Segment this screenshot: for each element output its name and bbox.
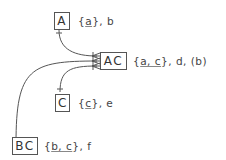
attrs-rest: }, d, (b) (161, 55, 207, 67)
primary-key: a, c (140, 55, 161, 67)
edge-a-ac (59, 30, 97, 56)
entity-a[interactable]: A (54, 12, 70, 30)
entity-ac[interactable]: AC (100, 52, 127, 70)
attrs-rest: }, f (72, 140, 91, 152)
primary-key: b, c (51, 140, 72, 152)
entity-bc-attributes: {b, c}, f (44, 139, 91, 153)
entity-bc[interactable]: BC (12, 137, 38, 155)
entity-a-attributes: {a}, b (78, 14, 114, 28)
entity-c[interactable]: C (55, 94, 70, 112)
attrs-rest: }, b (92, 15, 114, 27)
attrs-rest: }, e (91, 97, 113, 109)
edge-c-ac (60, 66, 97, 92)
entity-ac-attributes: {a, c}, d, (b) (133, 54, 207, 68)
entity-c-attributes: {c}, e (78, 96, 113, 110)
